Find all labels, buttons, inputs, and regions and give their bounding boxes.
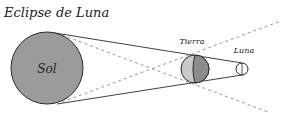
penumbra-line-up xyxy=(62,21,281,102)
earth-body xyxy=(181,55,209,83)
sun-label: Sol xyxy=(37,62,56,76)
sun-body: Sol xyxy=(11,32,83,104)
moon-label: Luna xyxy=(233,46,255,55)
earth-label: Tierra xyxy=(179,37,204,46)
diagram-title: Eclipse de Luna xyxy=(3,5,109,20)
umbra-line-top xyxy=(55,33,242,63)
moon-body xyxy=(236,63,248,75)
lunar-eclipse-diagram: Eclipse de Luna Sol Tierra Luna xyxy=(0,0,285,113)
umbra-line-bottom xyxy=(57,75,242,104)
